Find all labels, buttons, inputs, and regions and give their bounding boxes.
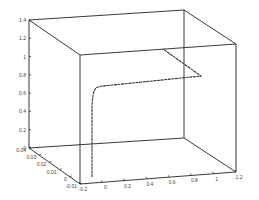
x-axis-tick-label: 0	[104, 184, 107, 190]
z-axis-tick-label: 0.2	[19, 127, 26, 133]
x-axis-tick-label: 0.8	[191, 177, 198, 183]
y-axis-tick-label: 0.01	[47, 169, 57, 175]
x-axis-tick-label: 1.2	[236, 174, 243, 180]
data-series-line	[92, 49, 201, 177]
x-axis-tick-label: 0.4	[146, 181, 153, 187]
x-axis-tick-label: 1	[215, 176, 218, 182]
x-axis-tick-label: 0.2	[124, 183, 131, 189]
z-axis-tick-label: 1.4	[19, 17, 26, 23]
y-axis-tick-label: -0.01	[66, 183, 78, 189]
axes-box	[29, 10, 236, 184]
y-axis-tick-label: 0.03	[26, 154, 36, 160]
x-axis-tick-label: -0.2	[79, 186, 88, 192]
z-axis-tick-label: 0.4	[19, 108, 26, 114]
x-axis-tick-label: 0.6	[169, 179, 176, 185]
y-axis-tick-label: 0.02	[37, 161, 47, 167]
y-axis-tick	[70, 176, 72, 177]
z-axis-tick-label: 1	[23, 54, 26, 60]
y-axis-tick	[60, 169, 62, 170]
y-axis-tick	[49, 161, 51, 162]
3d-line-chart: 00.20.40.60.811.21.4 0.040.030.020.010-0…	[0, 0, 259, 200]
y-axis-tick-label: 0.04	[16, 147, 26, 153]
z-axis-tick-label: 0.6	[19, 90, 26, 96]
y-axis-tick	[39, 154, 41, 155]
z-axis-tick-label: 0.8	[19, 72, 26, 78]
y-axis: 0.040.030.020.010-0.01	[16, 147, 82, 189]
y-axis-tick-label: 0	[64, 176, 67, 182]
z-axis-tick-label: 1.2	[19, 35, 26, 41]
